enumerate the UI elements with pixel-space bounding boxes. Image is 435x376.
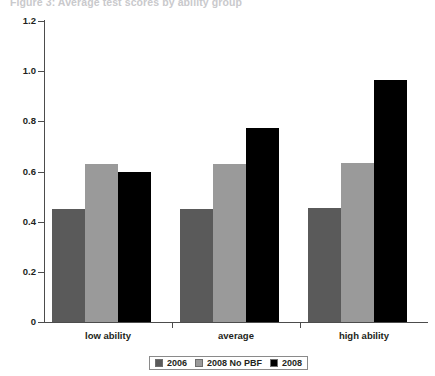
y-axis-tick-label: 0: [2, 317, 36, 327]
legend-label: 2006: [167, 359, 187, 368]
bar-high-ability-2008: [374, 80, 407, 322]
legend-swatch-icon: [270, 359, 278, 367]
bar-average-2006: [180, 209, 213, 322]
bar-average-2008-No-PBF: [213, 164, 246, 322]
y-axis-tick-label: 0.4: [2, 217, 36, 227]
y-axis-tick-label: 0.6: [2, 167, 36, 177]
legend-label: 2008 No PBF: [207, 359, 262, 368]
chart-legend: 20062008 No PBF2008: [149, 356, 308, 370]
x-axis-tick: [172, 322, 173, 328]
bar-high-ability-2006: [308, 208, 341, 322]
plot-area: [44, 21, 428, 322]
category-label-average: average: [172, 331, 300, 341]
y-axis-tick-label: 1.2: [2, 16, 36, 26]
legend-label: 2008: [282, 359, 302, 368]
bar-low-ability-2008-No-PBF: [85, 164, 118, 322]
legend-swatch-icon: [195, 359, 203, 367]
legend-item-2008-No-PBF: 2008 No PBF: [195, 359, 262, 368]
legend-item-2006: 2006: [155, 359, 187, 368]
y-axis-tick-label: 0.8: [2, 116, 36, 126]
bar-high-ability-2008-No-PBF: [341, 163, 374, 322]
x-axis-tick: [300, 322, 301, 328]
y-axis-tick-label: 0.2: [2, 267, 36, 277]
bar-low-ability-2006: [52, 209, 85, 322]
bar-low-ability-2008: [118, 172, 151, 323]
bar-chart: Figure 3: Average test scores by ability…: [0, 0, 435, 376]
clipped-figure-title: Figure 3: Average test scores by ability…: [10, 0, 430, 8]
category-label-low-ability: low ability: [44, 331, 172, 341]
legend-item-2008: 2008: [270, 359, 302, 368]
y-axis-tick: [38, 322, 44, 323]
x-axis-line: [44, 322, 428, 323]
bar-average-2008: [246, 128, 279, 322]
y-axis-tick-label: 1.0: [2, 66, 36, 76]
legend-swatch-icon: [155, 359, 163, 367]
category-label-high-ability: high ability: [300, 331, 428, 341]
